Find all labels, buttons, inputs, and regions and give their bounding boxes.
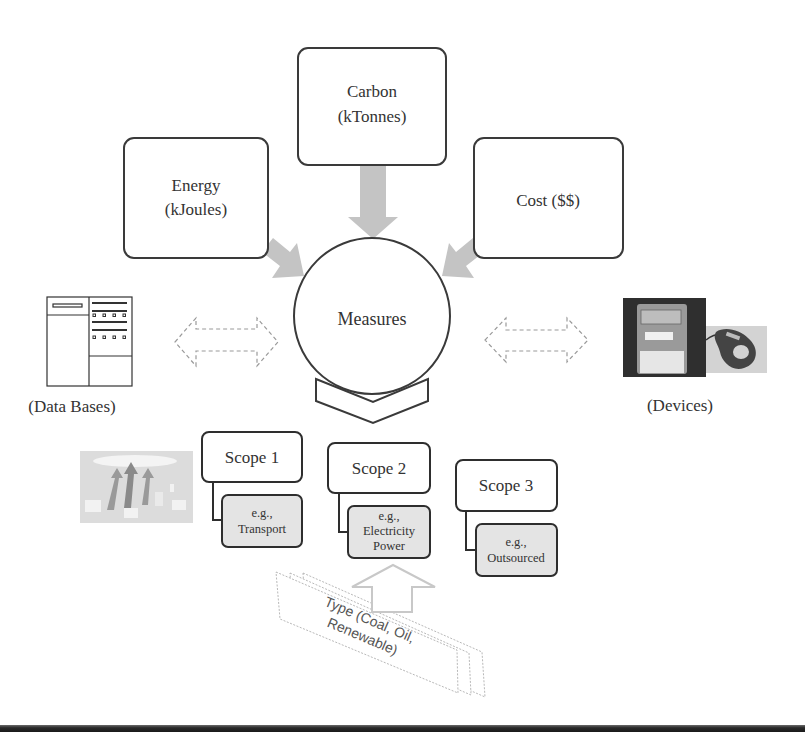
scope-3-label: Scope 3 xyxy=(479,476,533,495)
left-double-arrow-icon xyxy=(175,318,278,366)
scope-1-example: Transport xyxy=(238,522,287,536)
measures-diagram: Energy (kJoules) Carbon (kTonnes) Cost (… xyxy=(0,0,805,732)
carbon-label: Carbon xyxy=(347,82,398,101)
cost-box: Cost ($$) xyxy=(474,138,623,258)
database-table-icon xyxy=(47,297,132,386)
carbon-unit: (kTonnes) xyxy=(338,107,407,126)
scope-3-example-prefix: e.g., xyxy=(505,535,526,549)
energy-meter-photo xyxy=(623,298,767,377)
scope-3-example: Outsourced xyxy=(487,551,545,565)
scope-2-label: Scope 2 xyxy=(352,459,406,478)
devices-label: (Devices) xyxy=(647,396,713,415)
carbon-arrow xyxy=(348,166,398,239)
scope-1-label: Scope 1 xyxy=(225,448,279,467)
bottom-border-bar xyxy=(0,725,805,732)
scope-1-example-prefix: e.g., xyxy=(251,506,272,520)
right-double-arrow-icon xyxy=(485,318,588,362)
measures-label: Measures xyxy=(338,309,407,329)
energy-unit: (kJoules) xyxy=(165,200,227,219)
energy-box: Energy (kJoules) xyxy=(124,138,268,258)
scope-2-example-line3: Power xyxy=(373,539,406,553)
emissions-scope-picture xyxy=(80,451,193,523)
energy-label: Energy xyxy=(172,176,221,195)
scope-2-example: Electricity xyxy=(363,524,416,538)
scope-1: Scope 1 e.g., Transport xyxy=(202,432,302,547)
databases-label: (Data Bases) xyxy=(28,397,115,416)
scope-2: Scope 2 e.g., Electricity Power xyxy=(328,443,430,558)
measures-node: Measures xyxy=(294,238,450,423)
cost-label: Cost ($$) xyxy=(516,191,580,210)
scope-2-example-prefix: e.g., xyxy=(378,509,399,523)
carbon-box: Carbon (kTonnes) xyxy=(298,48,446,165)
scope-3: Scope 3 e.g., Outsourced xyxy=(456,460,557,576)
